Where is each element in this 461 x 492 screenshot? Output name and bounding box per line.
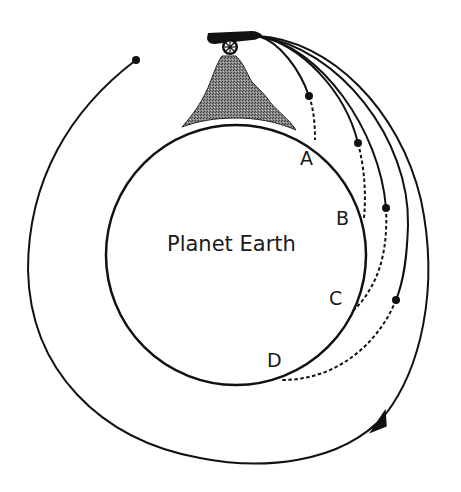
- trajectory-to-A-dashed: [309, 96, 315, 140]
- trajectory-A-dot: [305, 92, 313, 100]
- planet-label: Planet Earth: [167, 232, 296, 256]
- point-label-A: A: [300, 147, 313, 169]
- trajectory-B-dot: [354, 139, 362, 147]
- orbit-end-dot: [132, 56, 140, 64]
- newton-cannonball-diagram: Planet Earth A B C D: [0, 0, 461, 492]
- point-label-B: B: [336, 207, 349, 229]
- point-label-C: C: [329, 287, 342, 309]
- trajectory-to-B-dashed: [358, 143, 365, 218]
- trajectory-to-B-solid: [258, 36, 358, 143]
- trajectory-D-dot: [392, 296, 400, 304]
- trajectory-C-dot: [382, 204, 390, 212]
- trajectory-to-C-dashed: [352, 208, 386, 312]
- cannon-icon: [207, 31, 262, 55]
- mountain: [182, 56, 296, 130]
- arrow-head-icon: [371, 411, 386, 432]
- point-label-D: D: [267, 349, 282, 371]
